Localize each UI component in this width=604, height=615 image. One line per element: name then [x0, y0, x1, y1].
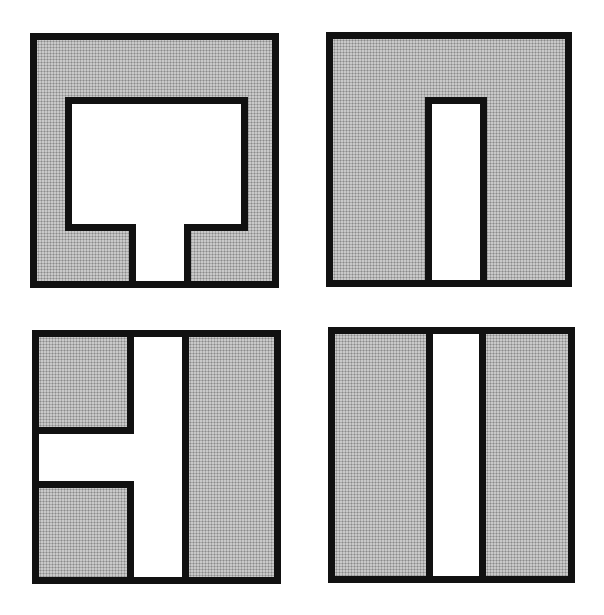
dotted-fill-top-left: [39, 337, 127, 427]
cutout-stem: [136, 220, 184, 281]
channel-horizontal: [39, 434, 139, 481]
channel-vertical: [134, 337, 182, 577]
dotted-fill-bottom-left: [39, 488, 127, 577]
cutout-box: [72, 104, 241, 224]
channel-vertical: [433, 334, 479, 576]
dotted-fill-left: [335, 334, 426, 576]
slot: [432, 104, 480, 280]
dotted-fill-right: [189, 337, 274, 577]
dotted-fill-right: [486, 334, 568, 576]
